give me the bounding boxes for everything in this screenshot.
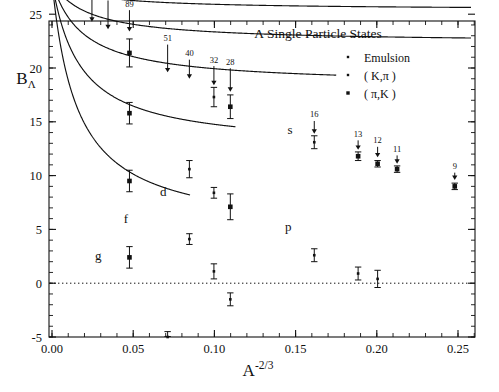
lambda-single-particle-states-chart: 0.000.050.100.150.200.25-5051015202530BΛ… (0, 0, 499, 392)
curve-label-g: g (95, 248, 102, 263)
marker-filled-square (356, 154, 361, 159)
marker-small-square (188, 168, 191, 171)
marker-small-square (313, 141, 316, 144)
arrow-head-icon (165, 68, 170, 72)
curve-labels: spdfg (95, 122, 292, 263)
legend-marker-3 (346, 91, 349, 94)
marker-filled-square (228, 205, 233, 210)
mass-annotation-label: 89 (125, 0, 134, 9)
marker-filled-square (127, 51, 132, 56)
data-point-s-3 (227, 95, 233, 119)
x-tick-label: 0.00 (41, 342, 63, 356)
x-axis-title: A-2/3 (243, 359, 274, 380)
legend: Emulsion( K,π )( π,K ) (346, 51, 410, 101)
plot-frame (49, 21, 475, 337)
arrow-head-icon (312, 129, 317, 133)
marker-filled-square (228, 104, 233, 109)
x-tick-label: 0.25 (447, 342, 469, 356)
mass-annotation-40: 40 (185, 48, 194, 79)
marker-small-square (229, 298, 232, 301)
arrow-head-icon (228, 87, 233, 91)
x-tick-label: 0.10 (203, 342, 225, 356)
chart-page: 0.000.050.100.150.200.25-5051015202530BΛ… (0, 0, 499, 392)
mass-annotation-label: 51 (163, 33, 172, 43)
mass-annotation-label: 13 (354, 129, 363, 139)
mass-annotation-label: 40 (185, 48, 194, 58)
mass-annotation-label: 12 (373, 135, 382, 145)
mass-annotation-208: 208 (86, 0, 99, 22)
data-point-p-3 (211, 187, 217, 198)
mass-annotation-12: 12 (373, 135, 382, 157)
arrow-head-icon (356, 145, 361, 149)
y-tick-label: 0 (36, 277, 42, 291)
data-point-s-6 (374, 161, 380, 167)
marker-small-square (313, 254, 316, 257)
data-point-d-4 (227, 293, 233, 306)
marker-filled-square (395, 167, 400, 172)
marker-filled-square (127, 255, 132, 260)
data-point-p-2 (186, 161, 192, 178)
mass-annotation-label: 11 (393, 144, 401, 154)
data-point-s-8 (452, 183, 458, 189)
y-tick-label: 25 (30, 8, 43, 22)
marker-small-square (188, 238, 191, 241)
arrow-head-icon (127, 27, 132, 31)
legend-marker-1 (347, 56, 349, 58)
arrow-head-icon (211, 81, 216, 85)
mass-annotation-11: 11 (393, 144, 401, 164)
data-point-s-7 (394, 166, 400, 172)
legend-marker-2 (347, 74, 349, 76)
x-tick-label: 0.20 (366, 342, 388, 356)
data-point-p-4 (227, 194, 233, 220)
legend-label-3: ( π,K ) (364, 87, 396, 101)
marker-small-square (166, 336, 169, 339)
curve-f (52, 0, 236, 127)
y-tick-label: -5 (32, 331, 42, 345)
y-tick-label: 5 (36, 223, 42, 237)
arrow-head-icon (452, 176, 457, 180)
chart-title: Λ Single Particle States (254, 26, 382, 41)
x-tick-label: 0.15 (285, 342, 307, 356)
legend-label-1: Emulsion (364, 51, 410, 65)
marker-filled-square (375, 161, 380, 166)
x-tick-label: 0.05 (122, 342, 144, 356)
mass-annotation-label: 28 (226, 57, 235, 67)
data-point-s-1 (126, 39, 132, 67)
mass-annotation-label: 32 (210, 55, 219, 65)
legend-label-2: ( K,π ) (364, 69, 396, 83)
data-point-f-1 (126, 247, 132, 269)
y-tick-label: 15 (30, 115, 43, 129)
curve-label-d: d (160, 184, 167, 199)
mass-annotation-label: 9 (453, 161, 457, 171)
mass-annotation-89: 89 (125, 0, 134, 31)
y-tick-label: 10 (30, 169, 43, 183)
arrow-head-icon (375, 153, 380, 157)
curve-label-s: s (287, 122, 292, 137)
marker-filled-square (127, 179, 132, 184)
curve-label-f: f (124, 211, 129, 226)
mass-annotation-9: 9 (452, 161, 457, 180)
marker-small-square (376, 278, 379, 281)
marker-filled-square (127, 111, 132, 116)
data-point-p-6 (355, 267, 361, 280)
data-point-d-2 (186, 234, 192, 245)
arrow-head-icon (105, 25, 110, 29)
mass-annotation-16: 16 (310, 109, 319, 133)
data-point-s-2 (211, 87, 217, 106)
data-point-d-3 (211, 264, 217, 279)
marker-small-square (213, 270, 216, 273)
marker-small-square (213, 96, 216, 99)
mass-annotation-32: 32 (210, 55, 219, 86)
mass-annotation-28: 28 (226, 57, 235, 92)
arrow-head-icon (395, 159, 400, 163)
mass-annotation-label: 16 (310, 109, 319, 119)
data-point-s-5 (355, 152, 361, 161)
marker-small-square (357, 272, 360, 275)
data-point-p-5 (311, 249, 317, 262)
data-points (126, 39, 458, 338)
data-point-p-7 (374, 270, 380, 287)
marker-small-square (213, 192, 216, 195)
curve-label-p: p (285, 219, 292, 234)
mass-annotation-13: 13 (354, 129, 363, 150)
arrow-head-icon (187, 74, 192, 78)
